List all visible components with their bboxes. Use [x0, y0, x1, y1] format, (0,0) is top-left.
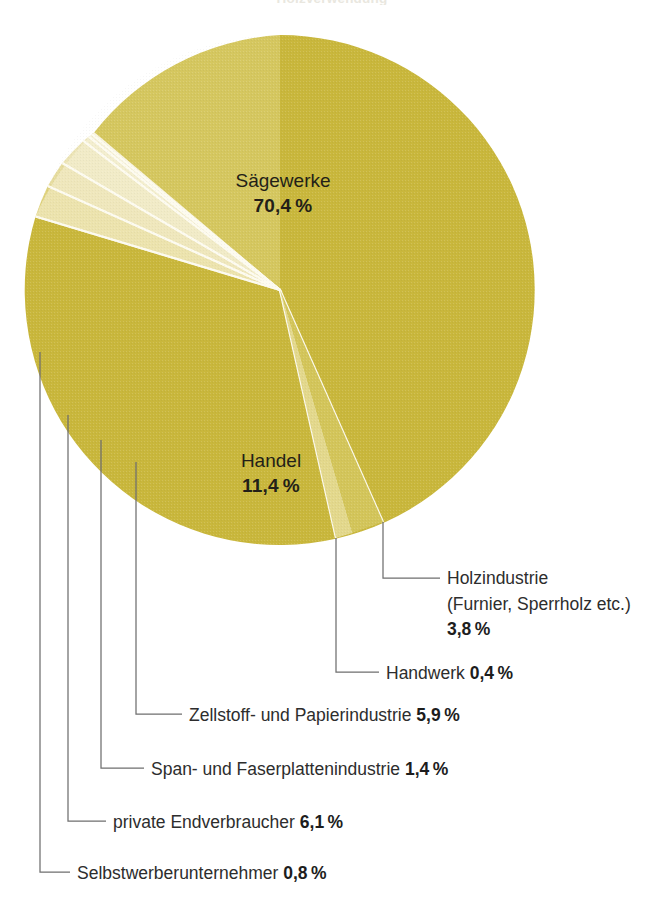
callout-selbstwerberunternehmer-label: Selbstwerberunternehmer	[77, 863, 283, 883]
leader-line-handwerk	[336, 538, 379, 672]
callout-holzindustrie: Holzindustrie (Furnier, Sperrholz etc.) …	[447, 566, 631, 643]
callout-span-faserplatten-label: Span- und Faserplattenindustrie	[151, 759, 405, 779]
callout-span-faserplatten: Span- und Faserplattenindustrie 1,4 %	[151, 757, 448, 783]
callout-private-endverbraucher: private Endverbraucher 6,1 %	[113, 810, 343, 836]
callout-zellstoff-value: 5,9 %	[416, 705, 459, 725]
leader-line-private	[68, 415, 106, 821]
callout-handwerk: Handwerk 0,4 %	[386, 661, 513, 687]
callout-holzindustrie-value: 3,8 %	[447, 617, 631, 643]
callout-holzindustrie-line1: Holzindustrie	[447, 566, 631, 592]
callout-selbstwerberunternehmer-value: 0,8 %	[283, 863, 326, 883]
callout-private-endverbraucher-label: private Endverbraucher	[113, 812, 300, 832]
callout-holzindustrie-line2: (Furnier, Sperrholz etc.)	[447, 592, 631, 618]
leader-line-selbst	[40, 352, 70, 872]
callout-zellstoff-label: Zellstoff- und Papierindustrie	[189, 705, 416, 725]
callout-handwerk-label: Handwerk	[386, 663, 470, 683]
callout-span-faserplatten-value: 1,4 %	[405, 759, 448, 779]
leader-line-holzindustrie	[383, 522, 440, 578]
callout-zellstoff: Zellstoff- und Papierindustrie 5,9 %	[189, 703, 460, 729]
callout-private-endverbraucher-value: 6,1 %	[300, 812, 343, 832]
callout-selbstwerberunternehmer: Selbstwerberunternehmer 0,8 %	[77, 861, 327, 887]
callout-handwerk-value: 0,4 %	[470, 663, 513, 683]
